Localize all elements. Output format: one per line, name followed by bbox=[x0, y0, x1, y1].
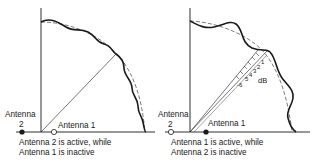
left-panel-antenna-2-active-dot bbox=[19, 129, 24, 134]
right-panel-antenna-2-label-line1: Antenna bbox=[158, 110, 189, 119]
db-tick-label: 1 bbox=[261, 59, 265, 65]
right-panel-antenna-1-label: Antenna 1 bbox=[208, 119, 246, 128]
left-panel-antenna-2-label-line1: Antenna bbox=[5, 110, 36, 119]
db-tick bbox=[240, 71, 243, 74]
left-panel-antenna-1-label: Antenna 1 bbox=[58, 121, 96, 130]
db-tick bbox=[236, 76, 239, 79]
db-tick bbox=[248, 62, 251, 65]
db-unit-label: dB bbox=[258, 76, 267, 85]
left-panel-caption-line2: Antenna 1 is inactive bbox=[19, 148, 95, 157]
right-panel-caption-line2: Antenna 2 is inactive bbox=[171, 148, 247, 157]
right-panel-antenna-2-label-line2: 2 bbox=[168, 120, 173, 129]
db-tick-label: -6 bbox=[237, 82, 243, 88]
db-tick bbox=[256, 53, 259, 56]
left-panel-antenna-1-inactive-dot bbox=[51, 129, 56, 134]
antenna-pattern-diagram: Antenna 2 Antenna 1 Antenna 2 is active,… bbox=[0, 0, 318, 163]
left-panel: Antenna 2 Antenna 1 Antenna 2 is active,… bbox=[5, 8, 155, 157]
right-panel-antenna-1-active-dot bbox=[203, 129, 208, 134]
left-panel-caption-line1: Antenna 2 is active, while bbox=[19, 138, 112, 147]
right-panel: -6 5 4 3 2 1 dB Antenna 2 Antenna 1 Ante… bbox=[158, 8, 310, 157]
left-panel-antenna-2-label-line2: 2 bbox=[19, 120, 24, 129]
db-tick bbox=[252, 57, 255, 60]
db-tick bbox=[244, 66, 247, 69]
right-panel-caption-line1: Antenna 1 is active, while bbox=[171, 138, 264, 147]
right-panel-ideal-curve bbox=[190, 21, 292, 132]
right-panel-antenna-2-inactive-dot bbox=[168, 129, 173, 134]
